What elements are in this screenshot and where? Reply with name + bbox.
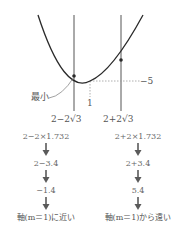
axis-label: 1 [87, 99, 93, 108]
down-arrow-icon [133, 170, 143, 183]
calc-step: −1.4 [36, 185, 55, 196]
calc-step: 2+2×1.732 [115, 131, 162, 142]
down-arrow-icon [41, 170, 51, 183]
min-label: 最小 [31, 93, 49, 102]
down-arrow-icon [41, 197, 51, 210]
max-point [119, 58, 123, 62]
left-calculation-column: 2−2×1.732 2−3.4 −1.4 軸(m＝1)に近い [0, 131, 92, 223]
right-root-label: 2+2√3 [103, 115, 133, 124]
calc-step: 2+3.4 [126, 158, 151, 169]
right-calculation-column: 2+2×1.732 2+3.4 5.4 軸(m＝1)から遠い [92, 131, 184, 223]
down-arrow-icon [133, 143, 143, 156]
conclusion-far-from-axis: 軸(m＝1)から遠い [105, 212, 172, 223]
left-root-label: 2−2√3 [51, 115, 81, 124]
calc-step: 5.4 [132, 185, 145, 196]
parabola-curve [38, 15, 143, 83]
down-arrow-icon [133, 197, 143, 210]
down-arrow-icon [41, 143, 51, 156]
calc-step: 2−3.4 [34, 158, 59, 169]
calc-step: 2−2×1.732 [23, 131, 70, 142]
min-leader-line [49, 77, 74, 98]
conclusion-near-axis: 軸(m＝1)に近い [17, 212, 76, 223]
parabola-graph [0, 0, 184, 130]
min-value-label: −5 [140, 77, 153, 86]
